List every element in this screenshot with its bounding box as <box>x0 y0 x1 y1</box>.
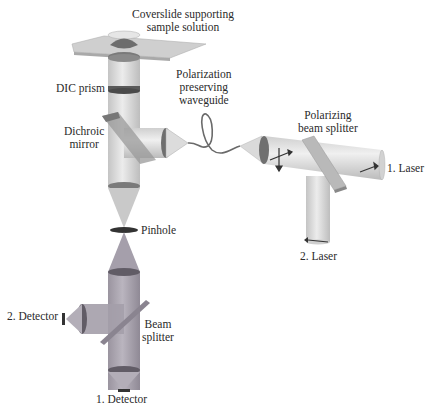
label-waveguide-line2: preserving <box>176 81 232 94</box>
label-beam-splitter: Beam splitter <box>142 318 174 344</box>
label-beam-splitter-line1: Beam <box>142 318 174 331</box>
label-dichroic-line2: mirror <box>64 138 104 151</box>
waveguide-fiber <box>188 114 240 153</box>
label-coverslide: Coverslide supporting sample solution <box>132 8 234 34</box>
label-polarizing-beam-splitter: Polarizing beam splitter <box>298 109 358 135</box>
label-pbs-line1: Polarizing <box>298 109 358 122</box>
lower-beam-column <box>62 232 150 392</box>
label-waveguide-line1: Polarization <box>176 68 232 81</box>
laser-beam-vertical <box>304 176 330 245</box>
label-pinhole: Pinhole <box>141 224 176 237</box>
label-laser-2: 2. Laser <box>300 250 337 263</box>
optical-diagram <box>0 0 431 408</box>
label-laser-1: 1. Laser <box>387 162 424 175</box>
label-coverslide-line1: Coverslide supporting <box>132 8 234 21</box>
label-pbs-line2: beam splitter <box>298 122 358 135</box>
label-waveguide-line3: waveguide <box>176 94 232 107</box>
label-dic-prism: DIC prism <box>56 82 105 95</box>
focusing-lens <box>108 182 140 228</box>
label-waveguide: Polarization preserving waveguide <box>176 68 232 107</box>
label-detector-1: 1. Detector <box>96 393 147 406</box>
dic-prism <box>108 86 140 94</box>
label-beam-splitter-line2: splitter <box>142 331 174 344</box>
label-dichroic-mirror: Dichroic mirror <box>64 125 104 151</box>
label-dichroic-line1: Dichroic <box>64 125 104 138</box>
label-coverslide-line2: sample solution <box>132 21 234 34</box>
label-detector-2: 2. Detector <box>7 310 58 323</box>
